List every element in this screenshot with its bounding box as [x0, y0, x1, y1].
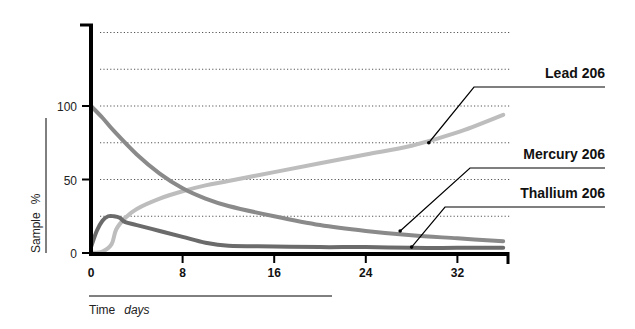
- x-tick-label: 24: [359, 266, 373, 280]
- x-axis-unit: days: [124, 303, 149, 317]
- callout-dot-thallium-206: [410, 245, 414, 249]
- x-tick-label: 16: [268, 266, 282, 280]
- callout-dot-mercury-206: [398, 229, 402, 233]
- y-tick-label: 100: [57, 100, 77, 114]
- legend-label-lead-206: Lead 206: [545, 65, 605, 81]
- x-tick-label: 0: [88, 266, 95, 280]
- decay-chart: 08162432 050100 Lead 206Mercury 206Thall…: [0, 0, 635, 329]
- legend-label-thallium-206: Thallium 206: [520, 185, 605, 201]
- callout-line-thallium-206: [412, 207, 605, 247]
- callout-dot-lead-206: [427, 141, 431, 145]
- y-tick-label: 0: [70, 247, 77, 261]
- y-axis-title: Sample%: [29, 193, 43, 253]
- y-ticks: 050100: [57, 100, 91, 261]
- legend-label-mercury-206: Mercury 206: [523, 146, 605, 162]
- x-tick-label: 32: [451, 266, 465, 280]
- series-line-lead-206: [91, 115, 503, 253]
- legend-callouts: Lead 206Mercury 206Thallium 206: [398, 65, 605, 249]
- x-tick-label: 8: [179, 266, 186, 280]
- y-tick-label: 50: [64, 174, 78, 188]
- x-axis-label: Time: [89, 303, 116, 317]
- y-axis-unit: %: [29, 193, 43, 204]
- y-axis-label: Sample: [29, 212, 43, 253]
- x-axis-title: Timedays: [89, 303, 150, 317]
- x-ticks: 08162432: [88, 254, 465, 280]
- gridlines: [100, 33, 510, 217]
